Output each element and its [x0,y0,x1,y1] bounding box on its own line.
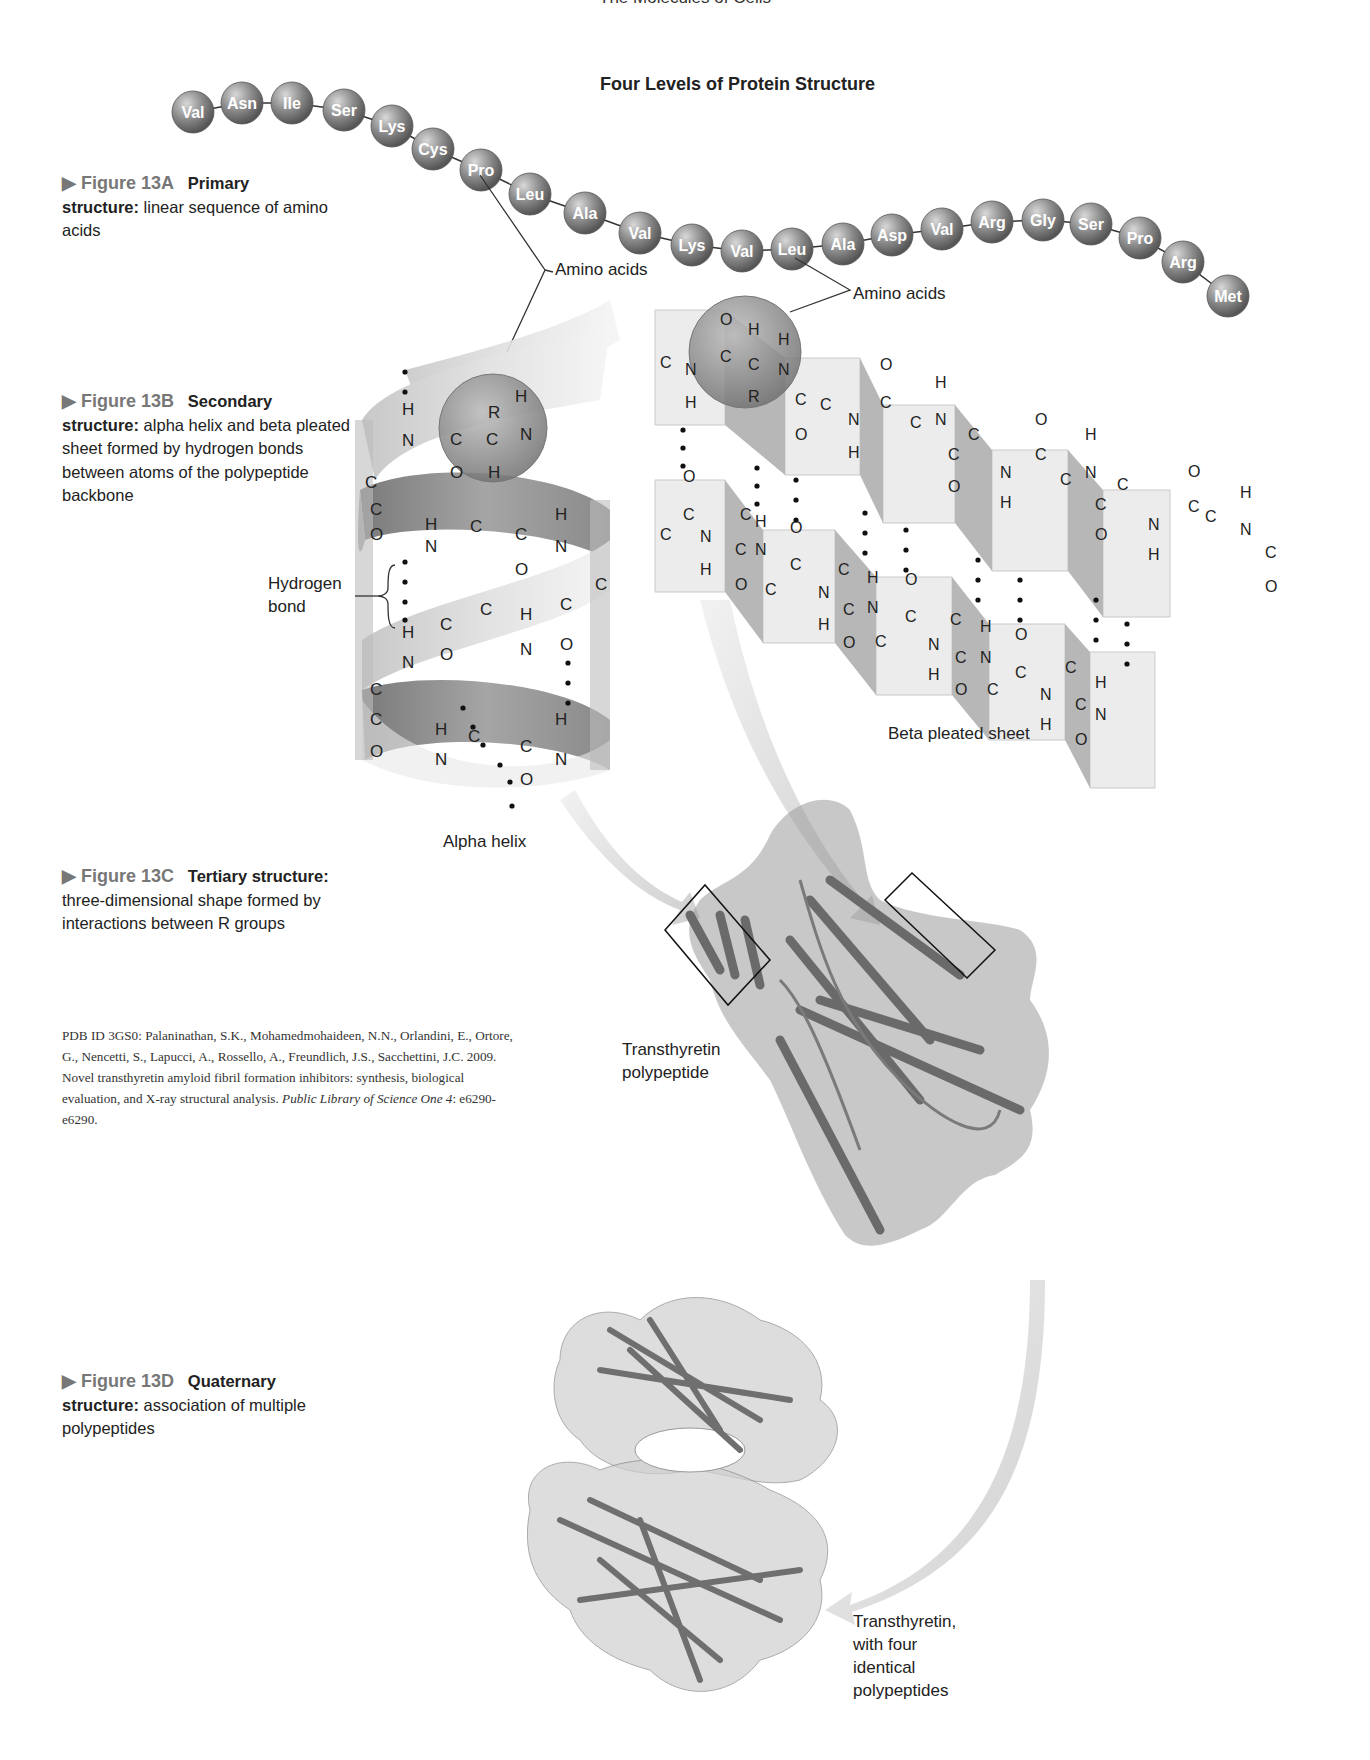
label-transthyretin-tetramer: Transthyretin, with four identical polyp… [853,1610,956,1702]
svg-text:N: N [520,425,532,444]
label-line: Transthyretin [622,1040,721,1059]
label-line: identical [853,1658,915,1677]
svg-text:C: C [486,430,498,449]
svg-text:N: N [700,528,712,545]
label-line: Hydrogen [268,574,342,593]
svg-text:C: C [880,394,892,411]
svg-text:C: C [843,601,855,618]
amino-acid-bead: Val [172,91,214,133]
svg-text:O: O [1095,526,1107,543]
svg-text:C: C [520,737,532,756]
svg-text:N: N [1095,706,1107,723]
svg-text:H: H [980,618,992,635]
amino-acid-label: Leu [516,186,544,203]
svg-text:O: O [1015,626,1027,643]
amino-acid-label: Val [730,243,753,260]
label-beta-pleated-sheet: Beta pleated sheet [888,722,1030,745]
label-amino-acids-sheet: Amino acids [853,282,946,305]
amino-acid-label: Lys [379,118,406,135]
protein-structure-artwork: ValAsnIleSerLysCysProLeuAlaValLysValLeuA… [0,0,1370,1760]
label-transthyretin-polypeptide: Transthyretin polypeptide [622,1038,721,1084]
amino-acid-bead: Ala [822,223,864,265]
svg-text:C: C [735,541,747,558]
amino-acid-bead: Ser [323,89,365,131]
amino-acid-label: Val [930,221,953,238]
svg-text:H: H [818,616,830,633]
svg-text:R: R [748,388,760,405]
svg-text:O: O [843,634,855,651]
amino-acid-label: Ser [331,102,357,119]
amino-acid-bead: Leu [509,173,551,215]
svg-text:H: H [778,331,790,348]
svg-text:C: C [370,500,382,519]
svg-text:H: H [748,321,760,338]
amino-acid-bead: Ser [1070,203,1112,245]
amino-acid-bead: Asp [871,214,913,256]
svg-text:H: H [555,710,567,729]
amino-acid-label: Ile [283,95,301,112]
svg-text:O: O [1075,731,1087,748]
svg-text:C: C [765,581,777,598]
svg-text:C: C [660,354,672,371]
amino-acid-label: Ala [573,205,598,222]
svg-text:H: H [755,513,767,530]
svg-text:H: H [435,720,447,739]
svg-text:N: N [555,750,567,769]
svg-text:N: N [935,411,947,428]
svg-text:C: C [1265,544,1277,561]
svg-text:C: C [1015,664,1027,681]
svg-text:O: O [955,681,967,698]
amino-acid-bead: Asn [221,82,263,124]
amino-acid-label: Gly [1030,212,1056,229]
svg-text:N: N [980,649,992,666]
amino-acid-bead: Val [721,230,763,272]
svg-text:N: N [520,640,532,659]
svg-text:C: C [470,517,482,536]
svg-text:H: H [1240,484,1252,501]
svg-text:C: C [370,710,382,729]
svg-text:C: C [450,430,462,449]
svg-text:C: C [660,526,672,543]
amino-acid-bead: Gly [1022,199,1064,241]
svg-text:N: N [435,750,447,769]
label-alpha-helix: Alpha helix [443,830,526,853]
svg-text:N: N [685,361,697,378]
svg-text:C: C [468,727,480,746]
svg-text:O: O [520,770,533,789]
svg-text:C: C [795,391,807,408]
amino-acid-label: Val [181,104,204,121]
quaternary-structure-tetramer [527,1298,837,1692]
svg-text:H: H [1040,716,1052,733]
svg-text:N: N [1000,464,1012,481]
svg-text:C: C [683,506,695,523]
svg-text:H: H [935,374,947,391]
tertiary-structure-transthyretin [665,800,1049,1246]
amino-acid-label: Pro [1127,230,1154,247]
amino-acid-bead: Arg [971,201,1013,243]
label-line: with four [853,1635,917,1654]
svg-text:C: C [1065,659,1077,676]
amino-acid-label: Asn [227,95,257,112]
amino-acid-label: Arg [1169,254,1197,271]
amino-acid-label: Ala [831,236,856,253]
svg-text:C: C [560,595,572,614]
svg-text:O: O [735,576,747,593]
svg-text:N: N [1040,686,1052,703]
svg-text:O: O [370,742,383,761]
svg-text:O: O [905,571,917,588]
amino-acid-bead: Cys [412,128,454,170]
amino-acid-beads: ValAsnIleSerLysCysProLeuAlaValLysValLeuA… [172,82,1249,317]
label-line: bond [268,597,306,616]
label-line: polypeptide [622,1063,709,1082]
amino-acid-bead: Leu [771,228,813,270]
svg-text:O: O [560,635,573,654]
amino-acid-label: Leu [778,241,806,258]
svg-text:C: C [748,356,760,373]
svg-text:C: C [1095,496,1107,513]
svg-text:H: H [867,569,879,586]
label-amino-acids-helix: Amino acids [555,258,648,281]
amino-acid-bead: Val [619,212,661,254]
svg-text:H: H [1000,494,1012,511]
svg-text:C: C [1205,508,1217,525]
svg-text:O: O [1035,411,1047,428]
